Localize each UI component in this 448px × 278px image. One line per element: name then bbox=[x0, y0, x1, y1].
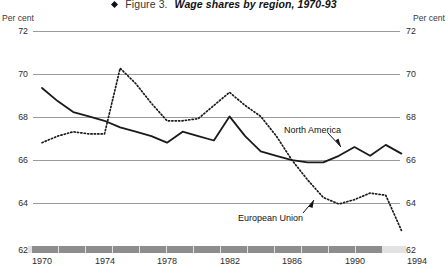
y-tick-left-68: 68 bbox=[18, 112, 28, 122]
y-tick-left-64: 64 bbox=[18, 198, 28, 208]
gridline-66 bbox=[33, 160, 400, 161]
figure-title-text: Wage shares by region, 1970-93 bbox=[175, 0, 337, 10]
annotation-european-union: European Union bbox=[238, 213, 303, 223]
figure-root: Figure 3. Wage shares by region, 1970-93… bbox=[0, 0, 448, 278]
y-tick-right-66: 66 bbox=[406, 155, 416, 165]
figure-number-label: Figure 3. bbox=[125, 0, 167, 10]
x-tick-1990: 1990 bbox=[345, 256, 365, 266]
y-tick-left-62: 62 bbox=[18, 245, 28, 255]
gridline-68 bbox=[33, 117, 400, 118]
gridline-72 bbox=[33, 31, 400, 32]
x-tick-1994: 1994 bbox=[407, 256, 427, 266]
figure-title-row: Figure 3. Wage shares by region, 1970-93 bbox=[0, 0, 448, 11]
y-tick-right-62: 62 bbox=[406, 245, 416, 255]
y-tick-left-72: 72 bbox=[18, 26, 28, 36]
x-tick-1978: 1978 bbox=[157, 256, 177, 266]
x-tick-1974: 1974 bbox=[95, 256, 115, 266]
gridline-70 bbox=[33, 74, 400, 75]
x-tick-1982: 1982 bbox=[220, 256, 240, 266]
gridline-64 bbox=[33, 203, 400, 204]
x-tick-1970: 1970 bbox=[32, 256, 52, 266]
y-axis-unit-left: Per cent bbox=[2, 13, 34, 23]
y-tick-left-66: 66 bbox=[18, 155, 28, 165]
diamond-bullet-icon bbox=[111, 1, 118, 8]
x-axis-bar bbox=[28, 246, 406, 253]
plot-area: 72 70 68 66 64 62 72 70 68 66 64 62 bbox=[33, 28, 400, 252]
y-tick-right-72: 72 bbox=[406, 26, 416, 36]
annotation-north-america: North America bbox=[284, 125, 341, 135]
y-tick-right-68: 68 bbox=[406, 112, 416, 122]
y-tick-right-64: 64 bbox=[406, 198, 416, 208]
y-tick-right-70: 70 bbox=[406, 69, 416, 79]
x-tick-1986: 1986 bbox=[282, 256, 302, 266]
y-axis-unit-right: Per cent bbox=[413, 13, 445, 23]
y-tick-left-70: 70 bbox=[18, 69, 28, 79]
